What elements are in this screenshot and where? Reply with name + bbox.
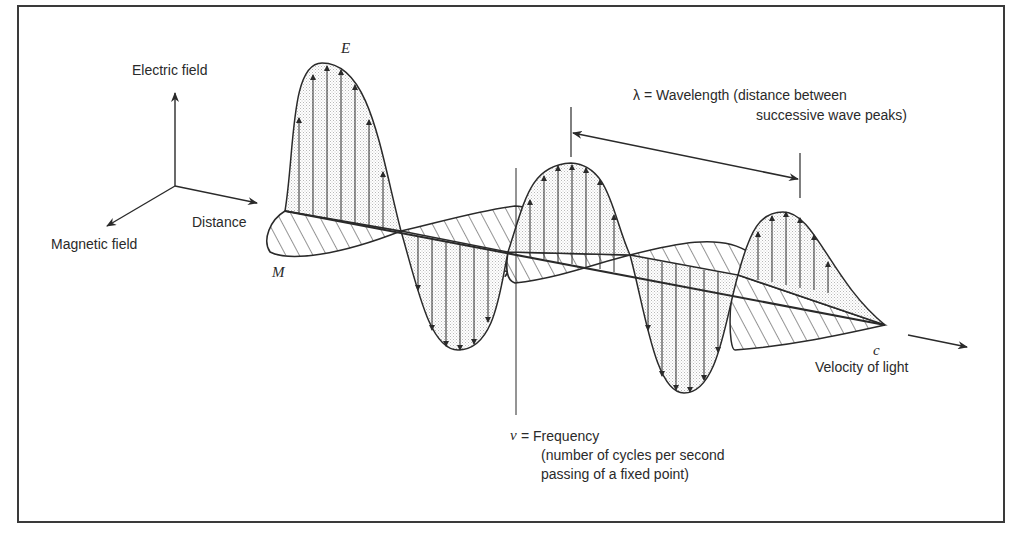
electric-lobe-4 bbox=[630, 255, 738, 393]
velocity-label: Velocity of light bbox=[815, 359, 908, 376]
em-wave-diagram bbox=[0, 0, 1018, 540]
electric-lobe-2 bbox=[401, 231, 508, 350]
distance-axis bbox=[175, 186, 257, 203]
velocity-symbol-label: c bbox=[873, 342, 880, 359]
velocity-arrow bbox=[908, 335, 967, 347]
electric-symbol-label: E bbox=[341, 40, 350, 57]
magnetic-symbol-label: M bbox=[272, 264, 285, 281]
distance-label: Distance bbox=[192, 214, 246, 231]
electric-lobe-3 bbox=[508, 163, 630, 255]
frequency-symbol: v bbox=[510, 427, 517, 444]
frequency-label-line3: passing of a fixed point) bbox=[541, 466, 689, 483]
frequency-label-line1: = Frequency bbox=[521, 428, 599, 445]
axes-legend bbox=[107, 93, 257, 226]
electric-field-label: Electric field bbox=[132, 62, 207, 79]
frequency-label-line2: (number of cycles per second bbox=[541, 447, 725, 464]
magnetic-field-label: Magnetic field bbox=[51, 236, 137, 253]
wavelength-arrow bbox=[573, 133, 798, 179]
magnetic-field-axis bbox=[107, 186, 175, 226]
electric-lobe-1 bbox=[285, 63, 401, 231]
wavelength-label-line1: λ = Wavelength (distance between bbox=[633, 87, 847, 104]
wavelength-label-line2: successive wave peaks) bbox=[756, 107, 907, 124]
